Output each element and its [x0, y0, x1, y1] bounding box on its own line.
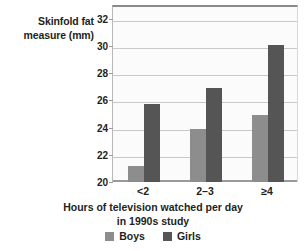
y-axis-tick-mark [109, 128, 113, 129]
y-axis-tick-labels: 20222426283032 [84, 5, 108, 182]
legend-item-boys: Boys [105, 230, 145, 242]
legend-label-boys: Boys [119, 230, 145, 242]
y-axis-title: Skinfold fat measure (mm) [6, 14, 94, 42]
y-axis-title-line-2: measure (mm) [6, 28, 94, 42]
bar-boys-2 [252, 115, 268, 182]
y-axis-tick-label: 28 [86, 68, 108, 79]
chart-legend: Boys Girls [0, 230, 306, 242]
y-axis-tick-label: 26 [86, 95, 108, 106]
plot-inner [113, 7, 297, 182]
x-axis-title-line-2: in 1990s study [0, 214, 306, 228]
y-axis-tick-mark [109, 155, 113, 156]
bar-boys-1 [190, 129, 206, 182]
bar-girls-2 [268, 45, 284, 183]
x-axis-category-labels: <22–3≥4 [112, 185, 298, 201]
y-axis-tick-label: 22 [86, 149, 108, 160]
y-axis-tick-label: 20 [86, 177, 108, 188]
x-axis-category-label-2: ≥4 [237, 185, 297, 197]
bar-girls-1 [206, 88, 222, 182]
bar-girls-0 [144, 104, 160, 182]
y-axis-tick-label: 32 [86, 13, 108, 24]
gridline [113, 21, 297, 22]
legend-item-girls: Girls [163, 230, 201, 242]
x-axis-category-label-0: <2 [113, 185, 173, 197]
y-axis-tick-mark [109, 73, 113, 74]
x-axis-category-label-1: 2–3 [175, 185, 235, 197]
y-axis-tick-mark [109, 46, 113, 47]
legend-label-girls: Girls [177, 230, 201, 242]
y-axis-tick-mark [109, 100, 113, 101]
y-axis-tick-mark [109, 19, 113, 20]
y-axis-tick-label: 24 [86, 122, 108, 133]
legend-swatch-boys-icon [105, 232, 114, 241]
x-axis-title-line-1: Hours of television watched per day [0, 200, 306, 214]
bar-chart-figure: Skinfold fat measure (mm) 20222426283032… [0, 0, 306, 251]
legend-swatch-girls-icon [163, 232, 172, 241]
y-axis-tick-label: 30 [86, 40, 108, 51]
y-axis-tick-mark [109, 182, 113, 183]
x-axis-title: Hours of television watched per day in 1… [0, 200, 306, 228]
bar-boys-0 [128, 166, 144, 182]
y-axis-title-line-1: Skinfold fat [6, 14, 94, 28]
plot-area [112, 5, 298, 182]
